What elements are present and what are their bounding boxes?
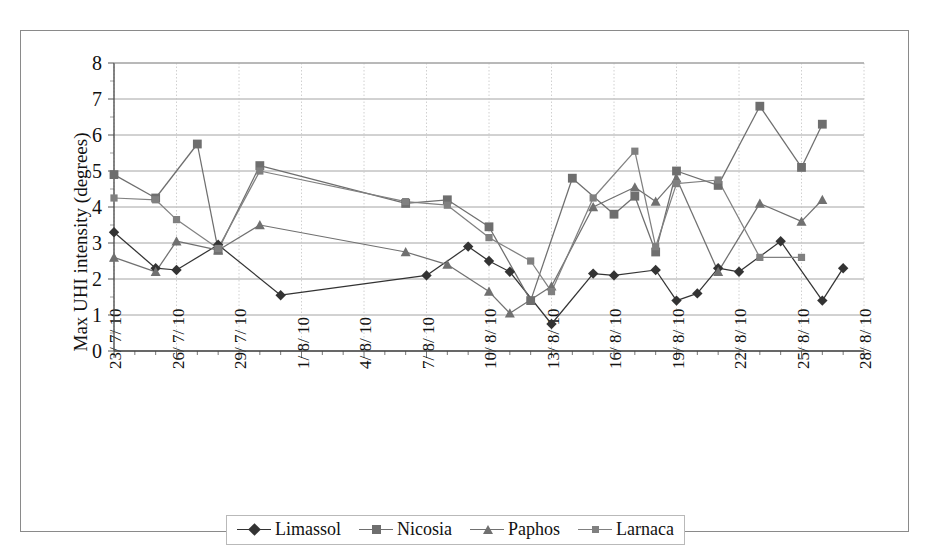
x-axis-tick-label: 1/ 8/ 10 bbox=[294, 317, 313, 369]
legend-item-larnaca[interactable]: Larnaca bbox=[578, 519, 674, 540]
data-point-paphos bbox=[817, 195, 827, 204]
x-axis-tick-label: 23/ 7/ 10 bbox=[106, 309, 125, 369]
x-axis-tick-label: 22/ 8/ 10 bbox=[731, 309, 750, 369]
legend-marker-square-icon bbox=[359, 523, 393, 537]
x-axis-tick-label: 28/ 8/ 10 bbox=[856, 309, 875, 369]
y-axis-tick-label: 1 bbox=[92, 304, 102, 326]
legend-marker-diamond-icon bbox=[237, 523, 271, 537]
data-point-nicosia bbox=[110, 170, 119, 179]
series-line-limassol bbox=[656, 270, 677, 301]
series-line-limassol bbox=[697, 268, 718, 293]
data-point-nicosia bbox=[797, 163, 806, 172]
data-point-larnaca bbox=[173, 216, 180, 223]
data-point-nicosia bbox=[568, 174, 577, 183]
data-point-limassol bbox=[671, 295, 681, 305]
series-line-paphos bbox=[677, 178, 719, 272]
series-line-limassol bbox=[281, 275, 427, 295]
data-point-larnaca bbox=[402, 198, 409, 205]
chart-legend: LimassolNicosiaPaphosLarnaca bbox=[226, 515, 685, 545]
x-axis-tick-label: 10/ 8/ 10 bbox=[481, 309, 500, 369]
data-point-limassol bbox=[838, 263, 848, 273]
data-point-paphos bbox=[255, 220, 265, 229]
data-point-paphos bbox=[172, 236, 182, 245]
series-line-limassol bbox=[552, 274, 594, 324]
data-point-nicosia bbox=[485, 222, 494, 231]
data-point-larnaca bbox=[444, 202, 451, 209]
data-point-nicosia bbox=[818, 120, 827, 129]
data-point-larnaca bbox=[756, 254, 763, 261]
series-line-nicosia bbox=[197, 144, 218, 250]
data-point-paphos bbox=[442, 260, 452, 269]
legend-label: Larnaca bbox=[616, 519, 674, 540]
series-line-paphos bbox=[260, 225, 406, 252]
data-point-larnaca bbox=[485, 234, 492, 241]
y-axis-tick-label: 2 bbox=[92, 268, 102, 290]
data-point-limassol bbox=[171, 265, 181, 275]
y-axis-tick-label: 3 bbox=[92, 232, 102, 254]
series-line-paphos bbox=[552, 207, 594, 286]
data-point-limassol bbox=[817, 295, 827, 305]
chart-plot: 01234567823/ 7/ 1026/ 7/ 1029/ 7/ 101/ 8… bbox=[21, 31, 908, 531]
series-line-limassol bbox=[614, 270, 656, 275]
legend-label: Nicosia bbox=[397, 519, 452, 540]
data-point-paphos bbox=[484, 287, 494, 296]
x-axis-tick-label: 29/ 7/ 10 bbox=[231, 309, 250, 369]
legend-item-limassol[interactable]: Limassol bbox=[237, 519, 341, 540]
legend-item-paphos[interactable]: Paphos bbox=[470, 519, 560, 540]
series-line-limassol bbox=[114, 232, 156, 268]
data-point-larnaca bbox=[256, 167, 263, 174]
data-point-paphos bbox=[109, 252, 119, 261]
series-line-paphos bbox=[447, 265, 489, 292]
series-line-paphos bbox=[760, 203, 802, 221]
data-point-larnaca bbox=[527, 257, 534, 264]
data-point-larnaca bbox=[110, 194, 117, 201]
x-axis-tick-label: 25/ 8/ 10 bbox=[794, 309, 813, 369]
data-point-limassol bbox=[734, 267, 744, 277]
data-point-larnaca bbox=[798, 254, 805, 261]
data-point-paphos bbox=[755, 198, 765, 207]
x-axis-tick-label: 19/ 8/ 10 bbox=[669, 309, 688, 369]
legend-label: Limassol bbox=[275, 519, 341, 540]
data-point-larnaca bbox=[652, 243, 659, 250]
data-point-nicosia bbox=[630, 192, 639, 201]
data-point-limassol bbox=[650, 265, 660, 275]
legend-item-nicosia[interactable]: Nicosia bbox=[359, 519, 452, 540]
x-axis-tick-label: 4/ 8/ 10 bbox=[356, 317, 375, 369]
data-point-nicosia bbox=[755, 102, 764, 111]
y-axis-tick-label: 8 bbox=[92, 52, 102, 74]
data-point-paphos bbox=[630, 182, 640, 191]
series-line-nicosia bbox=[718, 106, 760, 185]
data-point-nicosia bbox=[610, 210, 619, 219]
data-point-larnaca bbox=[215, 245, 222, 252]
series-line-larnaca bbox=[552, 198, 594, 292]
series-line-nicosia bbox=[447, 200, 489, 227]
y-axis-tick-label: 0 bbox=[92, 340, 102, 362]
legend-marker-triangle-icon bbox=[470, 523, 504, 537]
series-line-larnaca bbox=[656, 184, 677, 247]
data-point-limassol bbox=[775, 236, 785, 246]
y-axis-tick-label: 6 bbox=[92, 124, 102, 146]
data-point-larnaca bbox=[152, 196, 159, 203]
series-line-paphos bbox=[114, 257, 156, 271]
data-point-larnaca bbox=[673, 180, 680, 187]
data-point-limassol bbox=[484, 256, 494, 266]
x-axis-tick-label: 7/ 8/ 10 bbox=[419, 317, 438, 369]
x-axis-tick-label: 26/ 7/ 10 bbox=[169, 309, 188, 369]
legend-marker-square-small-icon bbox=[578, 523, 612, 537]
series-line-nicosia bbox=[760, 106, 802, 167]
data-point-nicosia bbox=[526, 296, 535, 305]
y-axis-tick-label: 7 bbox=[92, 88, 102, 110]
data-point-larnaca bbox=[548, 288, 555, 295]
data-point-larnaca bbox=[590, 194, 597, 201]
series-line-larnaca bbox=[447, 205, 489, 237]
legend-label: Paphos bbox=[508, 519, 560, 540]
data-point-larnaca bbox=[631, 148, 638, 155]
x-axis-tick-label: 16/ 8/ 10 bbox=[606, 309, 625, 369]
y-axis-tick-label: 5 bbox=[92, 160, 102, 182]
data-point-larnaca bbox=[715, 176, 722, 183]
series-line-limassol bbox=[822, 268, 843, 300]
series-line-larnaca bbox=[177, 220, 219, 249]
chart-frame: Max UHI intensity (degrees) 01234567823/… bbox=[20, 30, 909, 532]
series-line-larnaca bbox=[260, 171, 406, 202]
series-line-nicosia bbox=[802, 124, 823, 167]
